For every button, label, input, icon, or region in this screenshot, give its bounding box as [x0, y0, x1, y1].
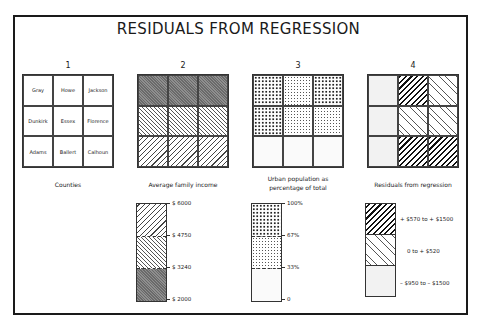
- map-cell: [198, 136, 228, 167]
- map-cell: Howe: [53, 75, 83, 106]
- map-cell: [138, 75, 168, 106]
- map-cell: [253, 75, 283, 106]
- county-label: Calhoun: [88, 149, 109, 155]
- county-label: Essex: [61, 118, 75, 124]
- map-cell: [313, 136, 343, 167]
- map-number-2: 2: [137, 61, 229, 70]
- urban-population-map: [252, 74, 344, 168]
- income-tick-3240: $ 3240: [166, 264, 191, 270]
- county-label: Jackson: [88, 87, 107, 93]
- map-cell: [313, 75, 343, 106]
- map-cell: [168, 106, 198, 137]
- county-label: Gray: [32, 87, 44, 93]
- county-label: Ballert: [60, 149, 76, 155]
- caption-counties: Counties: [8, 180, 128, 189]
- income-tick-4750: $ 4750: [166, 232, 191, 238]
- caption-urban-line1: Urban population as: [238, 174, 358, 183]
- urban-tick-0: 0: [281, 296, 291, 302]
- legend-seg-positive-high: [366, 204, 395, 235]
- map-cell: Essex: [53, 106, 83, 137]
- map-cell: [368, 75, 398, 106]
- caption-urban: Urban population as percentage of total: [238, 174, 358, 192]
- map-cell: [283, 136, 313, 167]
- map-cell: [283, 75, 313, 106]
- map-cell: [198, 75, 228, 106]
- map-cell: [313, 106, 343, 137]
- county-map: GrayHoweJacksonDunkirkEssexFlorenceAdams…: [22, 74, 114, 168]
- legend-seg-high-income: [137, 204, 166, 237]
- map-cell: Adams: [23, 136, 53, 167]
- urban-tick-100: 100%: [281, 200, 303, 206]
- map-cell: [368, 136, 398, 167]
- county-label: Howe: [61, 87, 75, 93]
- county-label: Adams: [29, 149, 46, 155]
- map-cell: [398, 136, 428, 167]
- county-label: Dunkirk: [28, 118, 47, 124]
- residuals-legend: [365, 203, 396, 297]
- legend-seg-low-urban: [252, 269, 281, 301]
- urban-tick-33: 33%: [281, 264, 299, 270]
- map-cell: [283, 106, 313, 137]
- legend-seg-mid-income: [137, 237, 166, 270]
- map-cell: [168, 75, 198, 106]
- map-number-3: 3: [252, 61, 344, 70]
- map-cell: [398, 75, 428, 106]
- income-tick-6000: $ 6000: [166, 200, 191, 206]
- legend-seg-positive-low: [366, 235, 395, 266]
- map-number-1: 1: [22, 61, 114, 70]
- caption-residuals: Residuals from regression: [353, 180, 473, 189]
- map-cell: Gray: [23, 75, 53, 106]
- figure-title: RESIDUALS FROM REGRESSION: [0, 20, 477, 38]
- legend-seg-mid-urban: [252, 237, 281, 270]
- map-cell: [428, 106, 458, 137]
- map-cell: [368, 106, 398, 137]
- residuals-map: [367, 74, 459, 168]
- county-label: Florence: [87, 118, 108, 124]
- map-cell: [138, 106, 168, 137]
- income-tick-2000: $ 2000: [166, 296, 191, 302]
- income-map: [137, 74, 229, 168]
- legend-seg-negative: [366, 266, 395, 296]
- urban-legend: [251, 203, 282, 302]
- map-cell: [428, 75, 458, 106]
- map-cell: Jackson: [83, 75, 113, 106]
- map-cell: [428, 136, 458, 167]
- urban-tick-67: 67%: [281, 232, 299, 238]
- residual-range-mid: 0 to + $520: [407, 248, 440, 254]
- map-cell: [253, 136, 283, 167]
- map-cell: [398, 106, 428, 137]
- legend-seg-high-urban: [252, 204, 281, 237]
- legend-seg-low-income: [137, 269, 166, 301]
- map-cell: Calhoun: [83, 136, 113, 167]
- map-cell: Ballert: [53, 136, 83, 167]
- map-cell: [168, 136, 198, 167]
- income-legend: [136, 203, 167, 302]
- caption-urban-line2: percentage of total: [238, 183, 358, 192]
- map-cell: [253, 106, 283, 137]
- caption-income: Average family income: [123, 180, 243, 189]
- map-cell: Dunkirk: [23, 106, 53, 137]
- map-cell: Florence: [83, 106, 113, 137]
- residual-range-high: + $570 to + $1500: [400, 216, 453, 222]
- map-cell: [198, 106, 228, 137]
- residual-range-low: – $950 to – $1500: [400, 280, 450, 286]
- map-cell: [138, 136, 168, 167]
- map-number-4: 4: [367, 61, 459, 70]
